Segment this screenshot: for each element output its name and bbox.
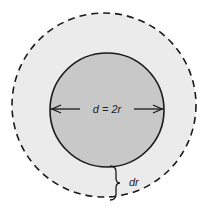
diameter-label: d = 2r	[93, 103, 123, 115]
thickness-label: dr	[129, 176, 140, 188]
diagram-canvas: d = 2r dr	[0, 0, 208, 212]
